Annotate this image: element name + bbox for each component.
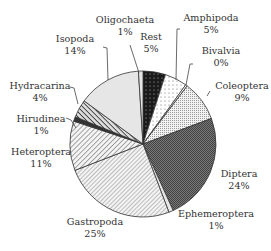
slice-name: Isopoda [56,33,94,45]
slice-percent: 9% [215,92,269,104]
slice-label-diptera: Diptera24% [221,168,258,192]
slice-label-heteroptera: Heteroptera11% [11,146,71,170]
slice-percent: 0% [202,57,241,69]
leader-line-hydracarina [70,87,78,104]
slice-percent: 24% [221,180,258,192]
slice-percent: 14% [56,45,94,57]
slice-percent: 5% [183,24,238,36]
leader-line-coleoptera [207,91,210,96]
slice-label-bivalvia: Bivalvia0% [202,45,241,69]
leader-line-amphipoda [176,29,180,80]
slice-label-hirudinea: Hirudinea1% [17,113,66,137]
leader-line-bivalvia [186,64,193,85]
slice-percent: 1% [96,26,154,38]
slice-percent: 4% [10,92,71,104]
slice-percent: 5% [140,43,162,55]
slice-name: Diptera [221,168,258,180]
slice-name: Hydracarina [10,80,71,92]
slice-label-oligochaeta: Oligochaeta1% [96,14,154,38]
slice-percent: 11% [11,158,71,170]
slice-label-gastropoda: Gastropoda25% [67,216,123,240]
slice-name: Amphipoda [183,12,238,24]
pie-slices [70,71,216,217]
leader-line-isopoda [103,47,108,80]
slice-label-amphipoda: Amphipoda5% [183,12,238,36]
slice-percent: 1% [178,220,254,232]
slice-name: Coleoptera [215,80,269,92]
slice-name: Oligochaeta [96,14,154,26]
slice-name: Hirudinea [17,113,66,125]
slice-name: Ephemeroptera [178,208,254,220]
slice-label-hydracarina: Hydracarina4% [10,80,71,104]
slice-name: Bivalvia [202,45,241,57]
slice-percent: 1% [17,125,66,137]
slice-label-coleoptera: Coleoptera9% [215,80,269,104]
slice-name: Heteroptera [11,146,71,158]
slice-label-isopoda: Isopoda14% [56,33,94,57]
slice-name: Gastropoda [67,216,123,228]
slice-percent: 25% [67,228,123,240]
slice-label-ephemeroptera: Ephemeroptera1% [178,208,254,232]
leader-line-oligochaeta [130,45,139,73]
